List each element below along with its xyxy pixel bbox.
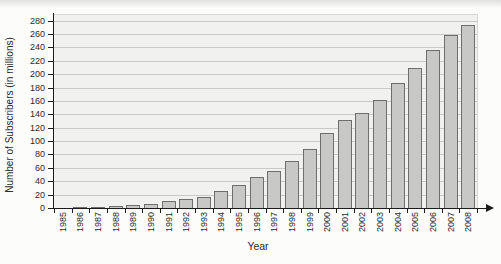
- x-tick-label-1998: 1998: [287, 212, 297, 232]
- bar-2003: [373, 100, 387, 209]
- bar-1996: [250, 177, 264, 209]
- y-tick-mark-20: [48, 195, 53, 196]
- x-tick-label-1995: 1995: [234, 212, 244, 232]
- y-tick-mark-120: [48, 128, 53, 129]
- x-tick-mark-15: [318, 209, 319, 213]
- x-tick-mark-9: [213, 209, 214, 213]
- bar-1994: [214, 191, 228, 209]
- x-tick-label-2005: 2005: [410, 212, 420, 232]
- x-tick-label-1991: 1991: [164, 212, 174, 232]
- x-tick-label-1997: 1997: [269, 212, 279, 232]
- y-tick-label-120: 120: [0, 123, 45, 132]
- x-tick-label-2000: 2000: [322, 212, 332, 232]
- bar-1998: [285, 161, 299, 209]
- y-tick-label-260: 260: [0, 30, 45, 39]
- x-axis-line: [53, 208, 487, 209]
- bar-1999: [303, 149, 317, 209]
- bar-2000: [320, 133, 334, 209]
- x-axis-arrow: [486, 204, 494, 212]
- x-tick-mark-10: [230, 209, 231, 213]
- x-tick-label-1992: 1992: [181, 212, 191, 232]
- x-tick-label-1989: 1989: [128, 212, 138, 232]
- bar-1997: [267, 171, 281, 209]
- y-tick-label-40: 40: [0, 177, 45, 186]
- y-tick-mark-100: [48, 141, 53, 142]
- x-tick-label-1985: 1985: [58, 212, 68, 232]
- x-tick-mark-0: [54, 209, 55, 213]
- x-tick-mark-19: [389, 209, 390, 213]
- bar-2006: [426, 50, 440, 209]
- gridline-240: [54, 47, 477, 48]
- y-tick-label-140: 140: [0, 110, 45, 119]
- x-tick-mark-3: [107, 209, 108, 213]
- x-tick-mark-14: [301, 209, 302, 213]
- plot-area: [54, 14, 478, 209]
- y-tick-label-60: 60: [0, 163, 45, 172]
- y-tick-mark-40: [48, 181, 53, 182]
- x-tick-label-1990: 1990: [146, 212, 156, 232]
- x-tick-mark-17: [354, 209, 355, 213]
- x-tick-label-1988: 1988: [111, 212, 121, 232]
- y-tick-mark-0: [48, 208, 53, 209]
- x-tick-label-2002: 2002: [357, 212, 367, 232]
- x-tick-mark-7: [177, 209, 178, 213]
- bar-1995: [232, 185, 246, 209]
- bar-2005: [408, 68, 422, 209]
- y-tick-mark-60: [48, 168, 53, 169]
- y-tick-mark-80: [48, 154, 53, 155]
- x-tick-mark-12: [266, 209, 267, 213]
- bar-2008: [461, 25, 475, 209]
- x-tick-label-2004: 2004: [393, 212, 403, 232]
- x-tick-mark-1: [72, 209, 73, 213]
- scan-edge-artifact: [0, 0, 501, 8]
- gridline-260: [54, 34, 477, 35]
- x-tick-mark-13: [283, 209, 284, 213]
- x-tick-label-1987: 1987: [93, 212, 103, 232]
- x-tick-label-1999: 1999: [305, 212, 315, 232]
- bar-2007: [444, 35, 458, 209]
- x-tick-mark-21: [424, 209, 425, 213]
- x-tick-label-2001: 2001: [340, 212, 350, 232]
- x-tick-mark-5: [142, 209, 143, 213]
- x-tick-label-1993: 1993: [199, 212, 209, 232]
- bar-2002: [355, 113, 369, 209]
- y-tick-label-80: 80: [0, 150, 45, 159]
- x-tick-mark-4: [125, 209, 126, 213]
- y-tick-label-0: 0: [0, 204, 45, 213]
- x-tick-mark-6: [160, 209, 161, 213]
- x-tick-mark-16: [336, 209, 337, 213]
- x-tick-label-2007: 2007: [446, 212, 456, 232]
- y-tick-mark-200: [48, 74, 53, 75]
- y-tick-label-220: 220: [0, 56, 45, 65]
- x-tick-mark-18: [371, 209, 372, 213]
- bar-2004: [391, 83, 405, 209]
- y-tick-mark-180: [48, 88, 53, 89]
- y-tick-label-20: 20: [0, 190, 45, 199]
- x-tick-mark-24: [477, 209, 478, 213]
- x-tick-mark-8: [195, 209, 196, 213]
- y-tick-mark-280: [48, 21, 53, 22]
- y-tick-mark-140: [48, 114, 53, 115]
- gridline-280: [54, 21, 477, 22]
- y-tick-mark-240: [48, 47, 53, 48]
- subscribers-bar-chart: Number of Subscribers (in millions) 0204…: [0, 0, 501, 264]
- x-tick-label-2008: 2008: [463, 212, 473, 232]
- x-tick-label-1986: 1986: [75, 212, 85, 232]
- y-tick-label-160: 160: [0, 96, 45, 105]
- x-tick-mark-23: [459, 209, 460, 213]
- y-tick-mark-220: [48, 61, 53, 62]
- x-tick-mark-22: [442, 209, 443, 213]
- bar-2001: [338, 120, 352, 209]
- y-tick-label-200: 200: [0, 70, 45, 79]
- x-tick-label-2006: 2006: [428, 212, 438, 232]
- x-tick-mark-20: [407, 209, 408, 213]
- y-tick-label-240: 240: [0, 43, 45, 52]
- x-tick-label-1996: 1996: [252, 212, 262, 232]
- x-tick-label-2003: 2003: [375, 212, 385, 232]
- x-axis-title: Year: [247, 240, 268, 252]
- y-tick-label-280: 280: [0, 16, 45, 25]
- x-tick-mark-2: [89, 209, 90, 213]
- y-tick-label-100: 100: [0, 137, 45, 146]
- y-axis-line: [53, 13, 54, 209]
- gridline-220: [54, 61, 477, 62]
